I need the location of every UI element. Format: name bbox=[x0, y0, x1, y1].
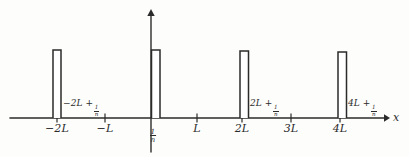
tick-label-L: L bbox=[193, 123, 201, 134]
pulse-at-4L bbox=[338, 52, 347, 118]
annotation-lead: 2L + bbox=[250, 98, 273, 108]
pulse-at-minus-2L bbox=[53, 50, 61, 118]
tick-label-minus-L: −L bbox=[97, 123, 114, 134]
annotation-4L-plus-one-over-n: 4L +1n bbox=[348, 99, 377, 117]
tick-label-minus-2L: −2L bbox=[45, 123, 69, 134]
x-axis-arrow-icon bbox=[384, 114, 390, 122]
tick-label-2L: 2L bbox=[235, 123, 250, 134]
tick-label-4L: 4L bbox=[333, 123, 348, 134]
tick-label-3L: 3L bbox=[284, 123, 299, 134]
fraction-one-over-n: 1 n bbox=[150, 128, 157, 144]
fraction-one-over-n: 1n bbox=[94, 105, 100, 117]
tick-label-one-over-n: 1 n bbox=[149, 121, 157, 143]
annotation-minus-2L-plus-one-over-n: −2L +1n bbox=[63, 99, 100, 117]
fraction-one-over-n: 1n bbox=[273, 105, 279, 117]
y-axis-arrow-icon bbox=[147, 9, 154, 16]
annotation-lead: 4L + bbox=[348, 98, 371, 108]
annotation-lead: −2L + bbox=[63, 98, 93, 108]
fraction-one-over-n: 1n bbox=[371, 105, 377, 117]
pulse-at-origin bbox=[152, 50, 161, 118]
pulse-at-2L bbox=[240, 51, 249, 118]
annotation-2L-plus-one-over-n: 2L +1n bbox=[250, 99, 279, 117]
x-axis-label: x bbox=[393, 112, 399, 123]
figure-container: −2L −L 1 n L 2L 3L 4L −2L +1n 2L +1n 4L … bbox=[0, 0, 409, 157]
